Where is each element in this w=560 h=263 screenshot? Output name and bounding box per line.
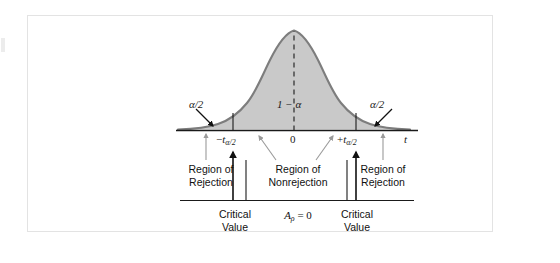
region-rejection-right-line1: Region of (352, 163, 414, 176)
alpha-right-leader-arrow (375, 109, 392, 126)
null-hypothesis-label: Aρ = 0 (262, 209, 334, 223)
figure-root: α/2 α/2 1 − α −tα/2 0 +tα/2 t Region of … (0, 0, 560, 263)
nonrejection-right-pointer-arrow (316, 136, 333, 160)
critical-value-left-line1: Critical (204, 208, 266, 221)
alpha-left-leader-arrow (196, 109, 213, 126)
alpha-over-two-label-right: α/2 (370, 98, 384, 111)
distribution-diagram (0, 0, 560, 263)
region-rejection-left-line1: Region of (180, 163, 242, 176)
critical-value-right-line2: Value (326, 221, 388, 234)
tick-label-critical-positive: +tα/2 (337, 133, 357, 147)
tick-label-center: 0 (290, 133, 296, 146)
null-hypothesis-rest: = 0 (295, 209, 312, 221)
one-minus-alpha-label: 1 − α (277, 98, 301, 111)
region-rejection-right-line2: Rejection (352, 176, 414, 189)
tick-neg-subscript: α/2 (225, 138, 235, 147)
null-hypothesis-base: A (284, 209, 291, 221)
critical-value-caption-left: Critical Value (204, 208, 266, 234)
region-label-rejection-right: Region of Rejection (352, 163, 414, 189)
region-label-nonrejection: Region of Nonrejection (258, 163, 338, 189)
nonrejection-left-pointer-arrow (259, 136, 276, 160)
axis-variable-label: t (404, 133, 407, 146)
region-nonrejection-line1: Region of (258, 163, 338, 176)
region-nonrejection-line2: Nonrejection (258, 176, 338, 189)
region-rejection-left-line2: Rejection (180, 176, 242, 189)
tick-zero-value: 0 (290, 133, 296, 145)
tick-pos-subscript: α/2 (346, 138, 356, 147)
critical-value-caption-right: Critical Value (326, 208, 388, 234)
tick-label-critical-negative: −tα/2 (216, 133, 236, 147)
alpha-over-two-label-left: α/2 (189, 98, 203, 111)
critical-value-right-line1: Critical (326, 208, 388, 221)
critical-value-left-line2: Value (204, 221, 266, 234)
region-label-rejection-left: Region of Rejection (180, 163, 242, 189)
